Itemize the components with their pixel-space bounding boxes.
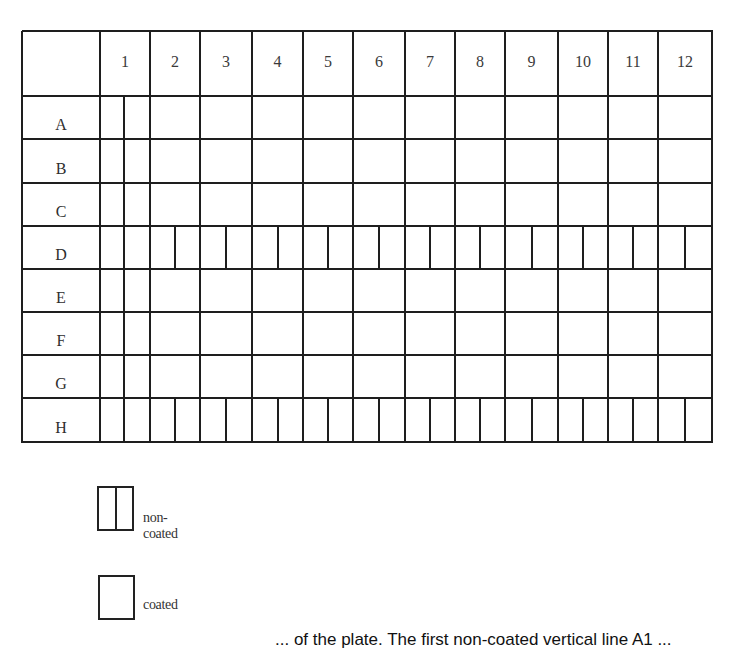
well-G1 <box>100 355 150 398</box>
well-C5 <box>303 183 353 226</box>
microplate-diagram: 123456789101112ABCDEFGH <box>22 31 713 443</box>
well-divider <box>582 397 584 443</box>
column-header-10: 10 <box>558 53 608 71</box>
row-header-B: B <box>22 160 100 178</box>
well-G4 <box>252 355 303 398</box>
well-G5 <box>303 355 353 398</box>
well-A7 <box>405 96 455 139</box>
well-divider <box>378 397 380 443</box>
well-F6 <box>353 312 405 355</box>
well-E11 <box>608 269 658 312</box>
column-header-4: 4 <box>252 53 303 71</box>
well-divider <box>632 225 634 270</box>
well-divider <box>123 182 125 227</box>
well-E7 <box>405 269 455 312</box>
well-divider <box>684 225 686 270</box>
well-F5 <box>303 312 353 355</box>
well-B4 <box>252 139 303 183</box>
column-header-12: 12 <box>658 53 712 71</box>
well-divider <box>684 397 686 443</box>
well-A8 <box>455 96 505 139</box>
well-divider <box>123 225 125 270</box>
well-A5 <box>303 96 353 139</box>
well-G10 <box>558 355 608 398</box>
well-C4 <box>252 183 303 226</box>
column-header-6: 6 <box>353 53 405 71</box>
figure-caption: ... of the plate. The first non-coated v… <box>275 630 672 650</box>
well-divider <box>479 225 481 270</box>
well-E9 <box>505 269 558 312</box>
well-C8 <box>455 183 505 226</box>
grid-hline <box>22 30 713 32</box>
well-G3 <box>200 355 252 398</box>
column-header-3: 3 <box>200 53 252 71</box>
well-E3 <box>200 269 252 312</box>
well-divider <box>378 225 380 270</box>
well-F4 <box>252 312 303 355</box>
non-coated-well-symbol <box>97 486 134 531</box>
well-B11 <box>608 139 658 183</box>
well-F2 <box>150 312 200 355</box>
well-divider <box>429 225 431 270</box>
well-A2 <box>150 96 200 139</box>
well-divider <box>123 354 125 399</box>
row-header-D: D <box>22 246 100 264</box>
well-divider <box>531 225 533 270</box>
well-A11 <box>608 96 658 139</box>
well-B2 <box>150 139 200 183</box>
well-C2 <box>150 183 200 226</box>
well-G12 <box>658 355 712 398</box>
well-A10 <box>558 96 608 139</box>
well-A1 <box>100 96 150 139</box>
legend-label-coated: coated <box>143 597 178 613</box>
well-E6 <box>353 269 405 312</box>
well-A12 <box>658 96 712 139</box>
well-divider <box>123 311 125 356</box>
well-divider <box>123 138 125 184</box>
well-H1 <box>100 398 150 442</box>
well-E8 <box>455 269 505 312</box>
well-B6 <box>353 139 405 183</box>
well-F3 <box>200 312 252 355</box>
column-header-1: 1 <box>100 53 150 71</box>
row-header-F: F <box>22 332 100 350</box>
well-divider <box>123 268 125 313</box>
well-F10 <box>558 312 608 355</box>
well-E4 <box>252 269 303 312</box>
column-header-9: 9 <box>505 53 558 71</box>
legend-label-non-coated: non-coated <box>143 510 178 542</box>
well-divider <box>429 397 431 443</box>
well-divider <box>277 397 279 443</box>
well-F7 <box>405 312 455 355</box>
well-E2 <box>150 269 200 312</box>
well-divider <box>174 397 176 443</box>
well-B7 <box>405 139 455 183</box>
row-header-C: C <box>22 203 100 221</box>
well-divider <box>327 397 329 443</box>
coated-well-symbol <box>98 575 135 620</box>
well-divider <box>174 225 176 270</box>
well-C7 <box>405 183 455 226</box>
well-divider <box>632 397 634 443</box>
well-divider <box>277 225 279 270</box>
well-B1 <box>100 139 150 183</box>
column-header-5: 5 <box>303 53 353 71</box>
well-divider <box>531 397 533 443</box>
well-G8 <box>455 355 505 398</box>
well-A6 <box>353 96 405 139</box>
well-G11 <box>608 355 658 398</box>
well-F12 <box>658 312 712 355</box>
well-B9 <box>505 139 558 183</box>
well-divider <box>115 488 117 529</box>
well-F1 <box>100 312 150 355</box>
well-C10 <box>558 183 608 226</box>
well-C11 <box>608 183 658 226</box>
well-C3 <box>200 183 252 226</box>
well-E1 <box>100 269 150 312</box>
well-F11 <box>608 312 658 355</box>
well-C12 <box>658 183 712 226</box>
well-B3 <box>200 139 252 183</box>
well-G2 <box>150 355 200 398</box>
well-divider <box>123 397 125 443</box>
well-E10 <box>558 269 608 312</box>
